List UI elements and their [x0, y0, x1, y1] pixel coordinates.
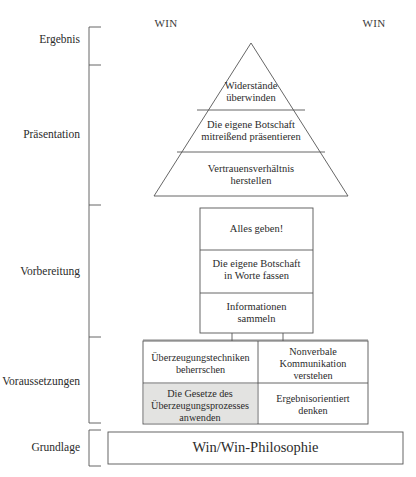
preparation-box-informationen: Informationen sammeln: [200, 301, 313, 326]
preparation-box-alles-geben: Alles geben!: [200, 223, 313, 235]
stage-label-vorbereitung: Vorbereitung: [0, 265, 80, 278]
stage-label-praesentation: Präsentation: [0, 128, 80, 141]
foundation-bar-label: Win/Win-Philosophie: [108, 439, 403, 456]
pyramid-tier-vertrauen: Vertrauensverhältnis herstellen: [166, 163, 336, 188]
stage-label-grundlage: Grundlage: [0, 441, 80, 454]
diagram-canvas: Ergebnis Präsentation Vorbereitung Vorau…: [0, 0, 416, 477]
stage-label-ergebnis: Ergebnis: [0, 33, 80, 46]
preparation-box-worte-fassen: Die eigene Botschaft in Worte fassen: [197, 258, 316, 283]
prerequisite-cell-ergebnisorientiert: Ergebnisorientiert denken: [259, 393, 367, 417]
pyramid-tier-widerstaende: Widerstände überwinden: [186, 80, 316, 105]
win-label-left: WIN: [136, 17, 196, 29]
win-label-right: WIN: [344, 17, 404, 29]
prerequisite-cell-ueberzeugungstechniken: Überzeugungstechniken beherrschen: [144, 352, 257, 376]
prerequisite-cell-nonverbale: Nonverbale Kommunikation verstehen: [259, 346, 367, 382]
prerequisite-cell-gesetze: Die Gesetze des Überzeugungsprozesses an…: [142, 388, 258, 424]
stage-label-voraussetzungen: Voraussetzungen: [0, 375, 80, 388]
pyramid-tier-botschaft: Die eigene Botschaft mitreißend präsenti…: [164, 119, 338, 144]
